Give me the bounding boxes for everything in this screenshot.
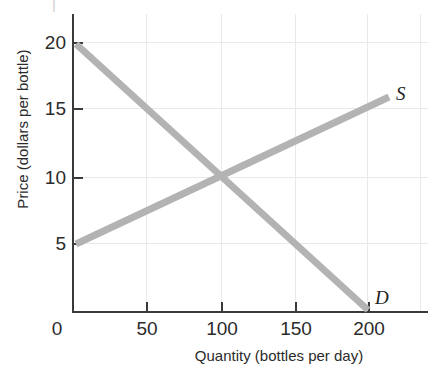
x-tick-mark-50: [146, 302, 148, 312]
gridline-horizontal-20: [72, 42, 428, 43]
x-tick-mark-100: [221, 302, 223, 312]
y-tick-mark-10: [74, 177, 83, 179]
supply-curve-label: S: [396, 84, 406, 103]
plot-area: [72, 14, 428, 312]
gridline-vertical-200: [367, 14, 368, 312]
gridline-horizontal-15: [72, 108, 428, 109]
x-axis-line: [72, 311, 428, 313]
clipped-text-artifact: |: [52, 0, 70, 12]
x-tick-mark-150: [295, 302, 297, 312]
y-axis-title: Price (dollars per bottle): [14, 14, 32, 244]
demand-curve-label: D: [375, 288, 389, 307]
x-tick-label-50: 50: [112, 318, 182, 340]
gridline-horizontal-5: [72, 243, 428, 244]
y-axis-line: [72, 14, 74, 313]
gridline-vertical-250: [420, 14, 421, 312]
x-tick-label-0: 0: [22, 318, 92, 340]
gridline-vertical-50: [146, 14, 147, 312]
x-tick-label-200: 200: [334, 318, 404, 340]
x-axis-title: Quantity (bottles per day): [130, 347, 428, 365]
y-tick-mark-20: [74, 42, 83, 44]
x-tick-mark-200: [368, 302, 370, 312]
y-tick-mark-15: [74, 108, 83, 110]
supply-demand-chart: | 20 15 10 5 0 50 100 150 200: [0, 0, 428, 376]
gridline-vertical-150: [295, 14, 296, 312]
gridline-horizontal-10: [72, 177, 428, 178]
y-tick-mark-5: [74, 243, 83, 245]
x-tick-label-100: 100: [187, 318, 257, 340]
gridline-vertical-100: [221, 14, 222, 312]
x-tick-label-150: 150: [261, 318, 331, 340]
